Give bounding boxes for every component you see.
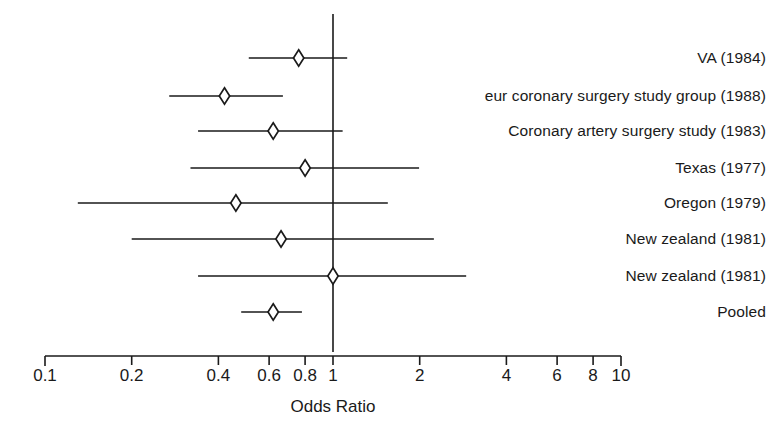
odds-ratio-marker: [300, 160, 310, 176]
odds-ratio-marker: [219, 88, 229, 104]
odds-ratio-marker: [293, 50, 303, 66]
x-axis-title: Odds Ratio: [290, 397, 375, 417]
forest-plot: VA (1984)eur coronary surgery study grou…: [0, 0, 780, 430]
odds-ratio-marker: [268, 123, 278, 139]
odds-ratio-marker: [231, 195, 241, 211]
odds-ratio-marker: [328, 268, 338, 284]
odds-ratio-marker: [276, 231, 286, 247]
forest-plot-canvas: [0, 0, 780, 430]
odds-ratio-marker: [268, 304, 278, 320]
